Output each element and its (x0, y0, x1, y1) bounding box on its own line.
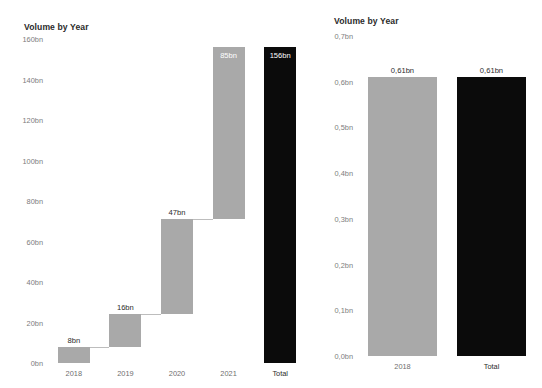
y-axis-tick-label: 20bn (27, 318, 48, 327)
bar-2019[interactable]: 16bn (109, 314, 141, 346)
y-axis-tick-label: 0,7bn (335, 32, 359, 41)
x-axis-tick-label-2018: 2018 (66, 369, 82, 378)
x-axis-tick-label-2021: 2021 (220, 369, 236, 378)
chart-left-title: Volume by Year (24, 22, 89, 32)
x-axis-tick-label-total: Total (272, 369, 288, 378)
bar-value-label: 47bn (169, 209, 186, 217)
y-axis-tick-label: 160bn (22, 35, 48, 44)
clipped-top-text-strip (0, 0, 542, 4)
y-axis-tick-label: 0,1bn (335, 306, 359, 315)
bar-2018[interactable]: 0,61bn (368, 77, 437, 356)
bar-value-label: 156bn (270, 52, 291, 60)
y-axis-tick-label: 0bn (31, 359, 48, 368)
chart-volume-by-year-waterfall: Volume by Year 0bn20bn40bn60bn80bn100bn1… (0, 22, 320, 380)
y-axis-tick-label: 0,2bn (335, 260, 359, 269)
chart-page: Volume by Year 0bn20bn40bn60bn80bn100bn1… (0, 0, 542, 388)
x-axis-tick-label-2019: 2019 (117, 369, 133, 378)
chart-right-plot-area: 0,0bn0,1bn0,2bn0,3bn0,4bn0,5bn0,6bn0,7bn… (358, 36, 536, 356)
x-axis-tick-label-2020: 2020 (169, 369, 185, 378)
y-axis-tick-label: 120bn (22, 116, 48, 125)
bar-total[interactable]: 0,61bn (457, 77, 526, 356)
y-axis-tick-label: 0,5bn (335, 123, 359, 132)
chart-right-title: Volume by Year (334, 16, 399, 26)
waterfall-connector (141, 314, 161, 315)
bar-value-label: 0,61bn (391, 67, 414, 75)
bar-value-label: 85bn (220, 52, 237, 60)
y-axis-tick-label: 0,6bn (335, 77, 359, 86)
bar-2020[interactable]: 47bn (161, 219, 193, 314)
y-axis-tick-label: 60bn (27, 237, 48, 246)
bar-2021[interactable]: 85bn (213, 47, 245, 219)
bar-2018[interactable]: 8bn (58, 347, 90, 363)
y-axis-tick-label: 40bn (27, 278, 48, 287)
bar-value-label: 16bn (117, 304, 134, 312)
y-axis-tick-label: 0,4bn (335, 169, 359, 178)
waterfall-connector (90, 347, 110, 348)
waterfall-connector (193, 219, 213, 220)
y-axis-tick-label: 140bn (22, 75, 48, 84)
x-axis-tick-label-2018: 2018 (394, 362, 410, 371)
y-axis-tick-label: 0,0bn (335, 352, 359, 361)
x-axis-tick-label-total: Total (484, 362, 500, 371)
y-axis-tick-label: 100bn (22, 156, 48, 165)
bar-total[interactable]: 156bn (264, 47, 296, 363)
bar-value-label: 8bn (67, 337, 80, 345)
bar-value-label: 0,61bn (480, 67, 503, 75)
y-axis-tick-label: 80bn (27, 197, 48, 206)
y-axis-tick-label: 0,3bn (335, 214, 359, 223)
chart-volume-by-year-bar: Volume by Year 0,0bn0,1bn0,2bn0,3bn0,4bn… (322, 16, 542, 380)
chart-left-plot-area: 0bn20bn40bn60bn80bn100bn120bn140bn160bn8… (48, 39, 306, 363)
